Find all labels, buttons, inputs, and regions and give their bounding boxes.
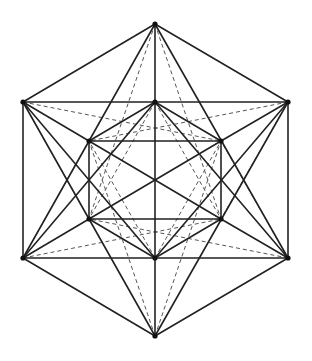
vertex-outer-lower-right xyxy=(285,255,290,260)
visible-edge xyxy=(221,102,288,141)
vertex-outer-upper-right xyxy=(285,99,290,104)
vertex-inner-lower-right xyxy=(218,216,223,221)
vertex-outer-lower-left xyxy=(20,255,25,260)
vertex-inner-top xyxy=(152,99,157,104)
visible-edge xyxy=(155,24,288,102)
visible-edge xyxy=(23,24,155,102)
visible-edge xyxy=(89,219,155,258)
visible-edge xyxy=(155,258,288,336)
visible-edge xyxy=(89,102,155,141)
vertex-inner-bottom xyxy=(152,255,157,260)
visible-edge xyxy=(23,102,89,141)
vertex-inner-upper-right xyxy=(218,138,223,143)
visible-edge xyxy=(23,219,89,258)
polyhedron-diagram xyxy=(0,0,312,361)
vertex-inner-upper-left xyxy=(86,138,91,143)
visible-edge xyxy=(23,258,155,336)
vertex-top xyxy=(152,21,157,26)
visible-edge xyxy=(221,219,288,258)
vertex-inner-lower-left xyxy=(86,216,91,221)
vertex-outer-upper-left xyxy=(20,99,25,104)
visible-edges xyxy=(23,24,288,336)
vertex-bottom xyxy=(152,333,157,338)
